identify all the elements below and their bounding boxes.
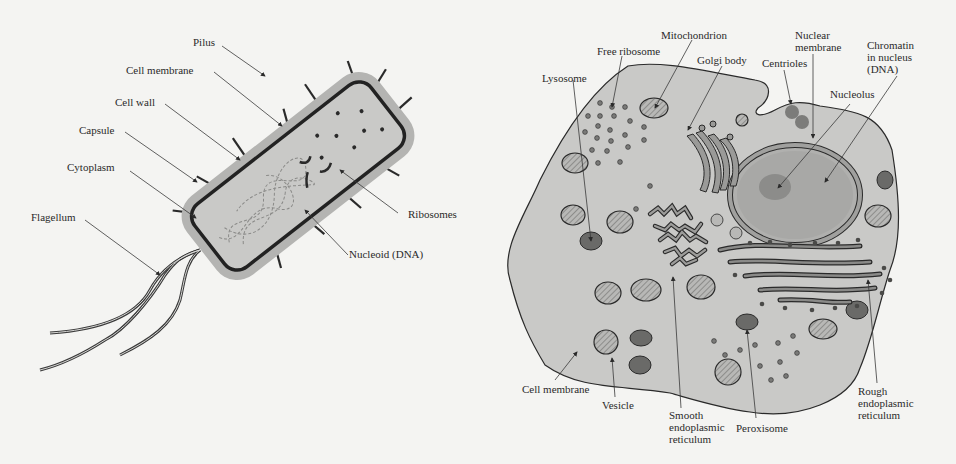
label-nucleoid: Nucleoid (DNA): [349, 248, 423, 260]
label-rough-er: Rough endoplasmic reticulum: [858, 385, 914, 421]
label-nucleolus: Nucleolus: [830, 88, 875, 100]
label-chromatin: Chromatin in nucleus (DNA): [867, 39, 914, 75]
label-centrioles: Centrioles: [762, 57, 807, 69]
label-pilus: Pilus: [193, 36, 215, 48]
nucleoplasm-shape: [737, 151, 853, 239]
label-ribosomes: Ribosomes: [408, 208, 457, 220]
label-lysosome: Lysosome: [542, 72, 587, 84]
label-cell-membrane: Cell membrane: [126, 64, 194, 76]
label-flagellum: Flagellum: [31, 211, 76, 223]
label-peroxisome: Peroxisome: [736, 422, 788, 434]
label-free-ribosome: Free ribosome: [597, 45, 660, 57]
label-cell-wall: Cell wall: [115, 96, 155, 108]
label-mitochondrion: Mitochondrion: [661, 29, 727, 41]
label-cytoplasm: Cytoplasm: [67, 161, 115, 173]
label-golgi-body: Golgi body: [697, 54, 747, 66]
label-capsule: Capsule: [79, 124, 114, 136]
label-nuclear-membrane: Nuclear membrane: [795, 29, 841, 53]
label-smooth-er: Smooth endoplasmic reticulum: [669, 409, 725, 445]
label-eukaryote-cell-membrane: Cell membrane: [522, 383, 590, 395]
label-vesicle: Vesicle: [602, 399, 634, 411]
prokaryotic-cell: [40, 36, 446, 370]
